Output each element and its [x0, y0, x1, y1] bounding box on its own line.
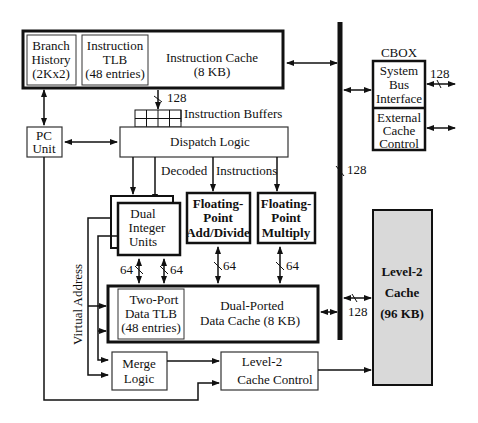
pc-unit-line2: Unit	[32, 141, 56, 156]
int-line2: Integer	[129, 220, 166, 235]
dcache-line2: Data Cache (8 KB)	[200, 313, 300, 328]
dtlb-line3: (48 entries)	[121, 320, 181, 335]
l2cc-line2: Cache Control	[237, 372, 313, 387]
fetch-width: 128	[167, 90, 187, 105]
fp-mul-width: 64	[286, 258, 300, 273]
fpm-line2: Point	[271, 210, 301, 225]
l2-line2: Cache	[385, 285, 420, 300]
dtlb-line1: Two-Port	[130, 292, 179, 307]
fpad-line1: Floating-	[193, 196, 244, 211]
cbox: CBOX System Bus Interface External Cache…	[373, 45, 425, 151]
system-bus-width: 128	[430, 66, 450, 81]
fpad-line3: Add/Divide	[186, 225, 250, 240]
virtual-address-label: Virtual Address	[70, 264, 85, 345]
l2-line3: (96 KB)	[380, 306, 424, 321]
fp-add-width: 64	[223, 258, 237, 273]
dcache-line1: Dual-Ported	[220, 298, 284, 313]
l2-line1: Level-2	[381, 264, 422, 279]
branch-history-line3: (2Kx2)	[32, 66, 70, 81]
cbox-title: CBOX	[381, 45, 418, 60]
int-line3: Units	[129, 234, 157, 249]
fpm-line1: Floating-	[261, 196, 312, 211]
icache-size: (8 KB)	[194, 64, 230, 79]
bus-width-label: 128	[347, 162, 367, 177]
sbi-line2: Bus	[389, 77, 409, 92]
int-line1: Dual	[130, 206, 156, 221]
fpad-line2: Point	[203, 210, 233, 225]
instruction-cache-block: Branch History (2Kx2) Instruction TLB (4…	[23, 31, 283, 88]
itlb-line1: Instruction	[87, 38, 144, 53]
sbi-line3: Interface	[376, 91, 422, 106]
branch-history-line1: Branch	[32, 38, 70, 53]
merge-line2: Logic	[124, 371, 155, 386]
l2cc-line1: Level-2	[242, 354, 282, 369]
int-left-width: 64	[120, 262, 134, 277]
decoded-label: Decoded	[161, 163, 208, 178]
ecc-line3: Control	[379, 136, 419, 151]
itlb-line2: TLB	[103, 52, 128, 67]
instruction-buffers-label: Instruction Buffers	[184, 106, 282, 121]
branch-history-line2: History	[32, 52, 72, 67]
itlb-line3: (48 entries)	[85, 66, 145, 81]
merge-line1: Merge	[122, 356, 156, 371]
instruction-buffers-grid	[135, 110, 181, 127]
dispatch-logic-label: Dispatch Logic	[170, 134, 250, 149]
icache-label: Instruction Cache	[166, 50, 258, 65]
int-right-width: 64	[170, 262, 184, 277]
alpha-block-diagram: Branch History (2Kx2) Instruction TLB (4…	[0, 0, 478, 423]
l2-link-width: 128	[348, 304, 368, 319]
sbi-line1: System	[380, 63, 418, 78]
fpm-line3: Multiply	[262, 225, 311, 240]
instructions-label: Instructions	[216, 163, 277, 178]
dtlb-line2: Data TLB	[125, 306, 177, 321]
